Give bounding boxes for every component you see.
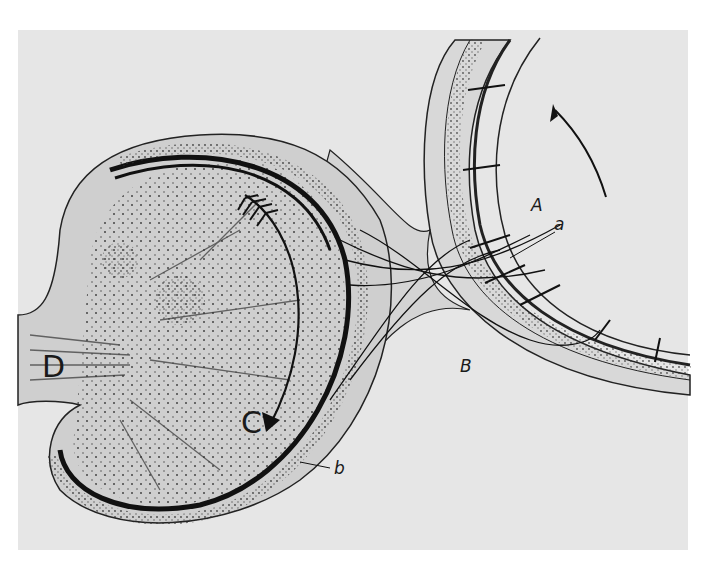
label-a: a: [554, 216, 564, 233]
label-A: A: [531, 197, 543, 214]
label-D: D: [42, 352, 65, 382]
eye-section-diagram: [0, 0, 702, 568]
label-B: B: [460, 358, 472, 375]
label-C: C: [241, 408, 262, 438]
arrow-A: [550, 104, 606, 197]
label-b: b: [334, 460, 345, 477]
leader-a: [510, 232, 555, 258]
